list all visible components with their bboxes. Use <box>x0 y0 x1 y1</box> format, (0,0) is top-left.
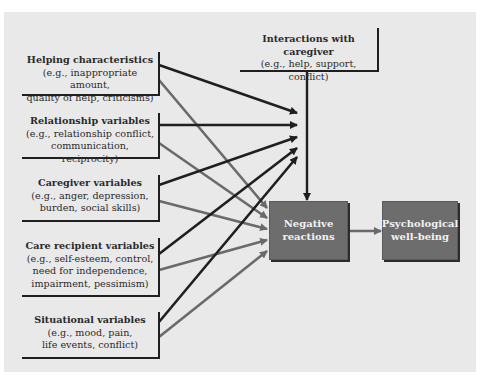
situational-variables-box: Situational variables (e.g., mood, pain,… <box>22 312 160 359</box>
box-title: Situational variables <box>22 314 158 327</box>
care-recipient-variables-box: Care recipient variables (e.g., self-est… <box>22 238 160 297</box>
box-title: Relationship variables <box>22 115 158 128</box>
box-examples: (e.g., help, support, conflict) <box>240 58 377 83</box>
box-examples: impairment, pessimism) <box>22 278 158 291</box>
box-examples: quality of help, criticisms) <box>22 92 158 105</box>
helping-characteristics-box: Helping characteristics (e.g., inappropr… <box>22 52 160 96</box>
caregiver-variables-box: Caregiver variables (e.g., anger, depres… <box>22 175 160 222</box>
box-title: Interactions with caregiver <box>240 33 377 58</box>
box-examples: burden, social skills) <box>22 202 158 215</box>
box-label-line: well-being <box>382 231 459 244</box>
gray-arrows-to-negative-reactions <box>159 80 267 337</box>
box-title: Care recipient variables <box>22 240 158 253</box>
box-examples: need for independence, <box>22 265 158 278</box>
relationship-variables-box: Relationship variables (e.g., relationsh… <box>22 113 160 159</box>
psychological-well-being-box: Psychological well-being <box>382 201 458 260</box>
box-examples: (e.g., self-esteem, control, <box>22 253 158 266</box>
box-examples: (e.g., anger, depression, <box>22 190 158 203</box>
negative-reactions-box: Negative reactions <box>269 201 348 260</box>
box-title: Helping characteristics <box>22 54 158 67</box>
box-examples: (e.g., mood, pain, <box>22 327 158 340</box>
interactions-with-caregiver-box: Interactions with caregiver (e.g., help,… <box>240 28 379 72</box>
box-examples: (e.g., inappropriate amount, <box>22 67 158 92</box>
box-examples: life events, conflict) <box>22 339 158 352</box>
box-label-line: Negative <box>282 218 334 231</box>
box-label-line: reactions <box>282 231 334 244</box>
box-examples: communication, reciprocity) <box>22 140 158 165</box>
box-label-line: Psychological <box>382 218 459 231</box>
box-examples: (e.g., relationship conflict, <box>22 128 158 141</box>
box-title: Caregiver variables <box>22 177 158 190</box>
